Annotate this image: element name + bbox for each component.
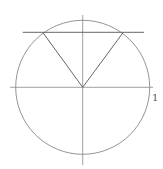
- unit-circle-diagram: 1: [0, 0, 163, 169]
- unit-label: 1: [152, 92, 158, 103]
